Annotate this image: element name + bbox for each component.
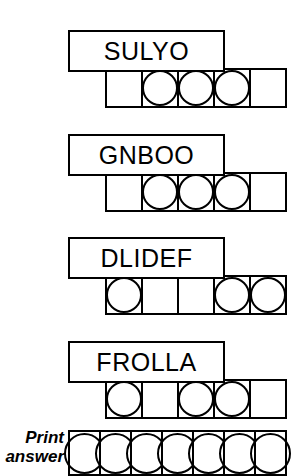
letter-cell-strip [105,379,287,419]
print-answer-label: Printanswer [2,428,64,466]
print-answer-label-line1: Print [2,428,64,447]
scrambled-word-box: GNBOO [68,134,225,176]
letter-cell[interactable] [249,68,287,108]
letter-cell[interactable] [105,172,143,212]
scrambled-word-box: SULYO [68,30,225,72]
letter-cell-circled[interactable] [105,379,143,419]
letter-cell[interactable] [177,275,215,315]
scrambled-word-text: GNBOO [99,143,195,168]
letter-cell[interactable] [249,379,287,419]
letter-cell-strip [105,68,287,108]
scrambled-word-box: FROLLA [68,341,225,383]
answer-cell-circled[interactable] [254,430,287,476]
letter-cell-circled[interactable] [213,275,251,315]
letter-cell-circled[interactable] [177,172,215,212]
letter-cell-circled[interactable] [141,172,179,212]
letter-cell[interactable] [141,275,179,315]
letter-cell-circled[interactable] [141,68,179,108]
letter-cell-circled[interactable] [105,275,143,315]
scrambled-word-box: DLIDEF [68,237,225,279]
letter-cell-circled[interactable] [213,68,251,108]
letter-cell-circled[interactable] [213,379,251,419]
letter-cell-strip [105,172,287,212]
letter-cell-strip [105,275,287,315]
answer-cell-strip [68,430,287,476]
scrambled-word-text: DLIDEF [101,246,193,271]
letter-cell-circled[interactable] [177,68,215,108]
letter-cell-circled[interactable] [249,275,287,315]
scrambled-word-text: FROLLA [96,350,196,375]
letter-cell[interactable] [105,68,143,108]
letter-cell[interactable] [141,379,179,419]
print-answer-label-line2: answer [2,447,64,466]
letter-cell-circled[interactable] [177,379,215,419]
scrambled-word-text: SULYO [104,39,189,64]
letter-cell[interactable] [249,172,287,212]
letter-cell-circled[interactable] [213,172,251,212]
